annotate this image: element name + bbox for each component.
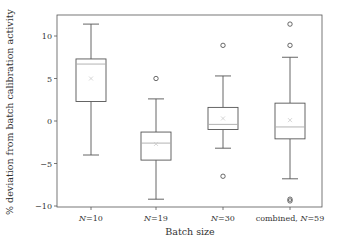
y-tick-label: 5 bbox=[47, 75, 52, 84]
outlier-point bbox=[221, 174, 225, 178]
x-axis-title: Batch size bbox=[165, 226, 215, 237]
y-tick-label: 10 bbox=[42, 32, 52, 41]
iqr-box bbox=[141, 132, 171, 160]
box-group bbox=[208, 43, 238, 178]
x-axis: N=10N=19N=30combined, N=59 bbox=[78, 207, 324, 223]
box-group bbox=[141, 76, 171, 199]
y-axis: −10−50510 bbox=[35, 32, 57, 211]
outlier-point bbox=[221, 43, 225, 47]
box-series bbox=[76, 22, 305, 203]
x-tick-label: N=19 bbox=[143, 214, 168, 223]
x-tick-label: combined, N=59 bbox=[256, 214, 325, 223]
outlier-point bbox=[288, 22, 292, 26]
chart-canvas: −10−50510 N=10N=19N=30combined, N=59 % d… bbox=[0, 0, 339, 247]
y-tick-label: −10 bbox=[35, 202, 52, 211]
box-group bbox=[275, 22, 305, 203]
y-tick-label: 0 bbox=[47, 117, 52, 126]
box-plot-chart: −10−50510 N=10N=19N=30combined, N=59 % d… bbox=[0, 0, 339, 247]
iqr-box bbox=[76, 59, 106, 101]
box-group bbox=[76, 24, 106, 155]
x-tick-label: N=10 bbox=[78, 214, 103, 223]
y-tick-label: −5 bbox=[40, 160, 52, 169]
iqr-box bbox=[275, 103, 305, 139]
outlier-point bbox=[154, 76, 158, 80]
outlier-point bbox=[288, 43, 292, 47]
x-tick-label: N=30 bbox=[210, 214, 235, 223]
y-axis-title: % deviation from batch calibration activ… bbox=[4, 8, 15, 214]
